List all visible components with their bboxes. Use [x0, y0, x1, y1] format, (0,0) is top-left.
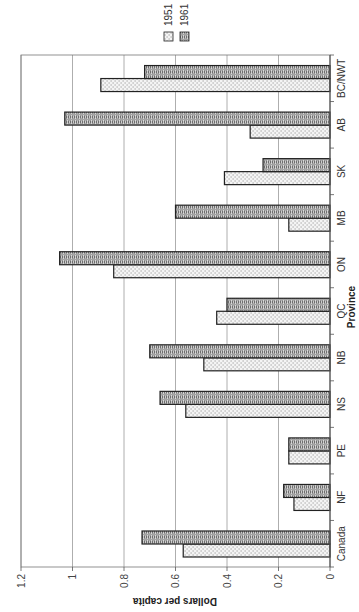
bar-1951-MB	[289, 218, 330, 231]
chart-rotated: 00.20.40.60.811.2 CanadaNFPENSNBQCONMBSK…	[0, 0, 359, 612]
bar-1961-NB	[150, 345, 330, 358]
y-axis-ticks: 00.20.40.60.811.2	[16, 567, 336, 588]
x-category-label: NF	[336, 491, 347, 504]
bars	[60, 66, 330, 557]
bar-chart: 00.20.40.60.811.2 CanadaNFPENSNBQCONMBSK…	[0, 0, 359, 612]
bar-1951-Canada	[183, 544, 330, 557]
bar-1951-NB	[204, 358, 330, 371]
x-category-label: NS	[336, 397, 347, 411]
y-tick-label: 0	[325, 574, 336, 580]
x-category-label: Canada	[336, 526, 347, 561]
x-category-label: PE	[336, 444, 347, 458]
legend: 1951 1961	[163, 3, 190, 41]
y-tick-label: 0.2	[273, 574, 284, 588]
bar-1951-QC	[217, 311, 330, 324]
legend-swatch-1951	[164, 32, 173, 41]
y-axis-title: Dollars per capita	[133, 596, 217, 607]
bar-1961-MB	[176, 205, 331, 218]
bar-1961-SK	[263, 159, 330, 172]
bar-1961-NF	[284, 484, 330, 497]
bar-1961-QC	[227, 298, 330, 311]
y-tick-label: 0.4	[222, 574, 233, 588]
x-category-label: SK	[336, 164, 347, 178]
y-tick-label: 1.2	[16, 574, 27, 588]
y-tick-label: 1	[67, 574, 78, 580]
bar-1951-NS	[186, 404, 330, 417]
bar-1951-NF	[294, 497, 330, 510]
legend-label-1961: 1961	[179, 3, 190, 26]
legend-swatch-1961	[180, 32, 189, 41]
bar-1961-AB	[65, 112, 330, 125]
bar-1961-ON	[60, 252, 330, 265]
bar-1951-BC-NWT	[101, 79, 330, 92]
x-category-label: AB	[336, 118, 347, 132]
bar-1961-BC-NWT	[145, 66, 330, 79]
y-tick-label: 0.8	[119, 574, 130, 588]
y-tick-label: 0.6	[170, 574, 181, 588]
bar-1951-PE	[289, 451, 330, 464]
x-category-label: MB	[336, 210, 347, 225]
x-category-label: ON	[336, 257, 347, 272]
bar-1961-Canada	[142, 531, 330, 544]
x-category-label: NB	[336, 350, 347, 364]
bar-1951-AB	[250, 125, 330, 138]
bar-1951-ON	[114, 265, 330, 278]
x-axis-title: Province	[346, 285, 357, 328]
x-category-label: BC/NWT	[336, 59, 347, 98]
bar-1961-PE	[289, 438, 330, 451]
bar-1951-SK	[224, 172, 330, 185]
bar-1961-NS	[160, 391, 330, 404]
legend-label-1951: 1951	[163, 3, 174, 26]
